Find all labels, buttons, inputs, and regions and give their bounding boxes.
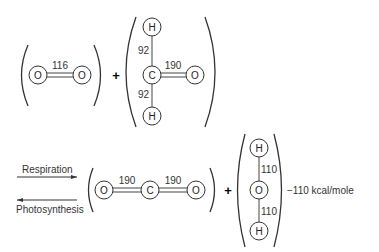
- atom-o: O: [186, 66, 204, 84]
- atom-h: H: [143, 107, 161, 125]
- plus-sign: +: [112, 68, 120, 83]
- svg-text:H: H: [148, 111, 155, 122]
- atom-c: C: [141, 181, 159, 199]
- atom-o: O: [95, 181, 113, 199]
- bond-label: 110: [261, 206, 277, 217]
- svg-text:H: H: [148, 22, 155, 33]
- svg-text:H: H: [255, 226, 262, 237]
- svg-text:O: O: [78, 70, 86, 81]
- bond-label: 190: [119, 175, 136, 186]
- bond-label: 92: [138, 89, 150, 100]
- atom-o: O: [187, 181, 205, 199]
- svg-text:O: O: [100, 185, 108, 196]
- svg-text:O: O: [34, 70, 42, 81]
- atom-c: C: [143, 66, 161, 84]
- left-bracket: [22, 45, 29, 106]
- reaction-arrows: Respiration Photosynthesis: [16, 164, 84, 215]
- bond-label: 110: [261, 164, 277, 175]
- atom-o: O: [29, 66, 47, 84]
- o2-molecule: 116 O O: [22, 45, 101, 106]
- plus-sign: +: [224, 183, 232, 198]
- ch2o-molecule: 92 92 190 H C O H: [126, 17, 215, 127]
- atom-o: O: [73, 66, 91, 84]
- atom-h: H: [143, 18, 161, 36]
- co2-molecule: 190 190 O C O: [89, 168, 215, 212]
- h2o-molecule: 110 110 H O H: [238, 134, 282, 247]
- svg-text:O: O: [191, 70, 199, 81]
- bond-label: 92: [138, 45, 150, 56]
- atom-h: H: [250, 222, 268, 240]
- photosynthesis-label: Photosynthesis: [16, 204, 84, 215]
- atom-h: H: [250, 139, 268, 157]
- atom-o: O: [250, 181, 268, 199]
- svg-text:C: C: [148, 70, 155, 81]
- svg-text:C: C: [146, 185, 153, 196]
- svg-text:O: O: [255, 185, 263, 196]
- bond-label: 190: [165, 175, 182, 186]
- energy-label: −110 kcal/mole: [287, 185, 354, 196]
- bond-label: 190: [165, 60, 182, 71]
- svg-text:O: O: [192, 185, 200, 196]
- svg-text:H: H: [255, 143, 262, 154]
- right-bracket: [94, 45, 101, 106]
- o2-bond-label: 116: [52, 60, 68, 71]
- reaction-diagram: 116 O O + 92 92 190 H C O H Respiration …: [0, 0, 379, 252]
- respiration-label: Respiration: [22, 164, 73, 175]
